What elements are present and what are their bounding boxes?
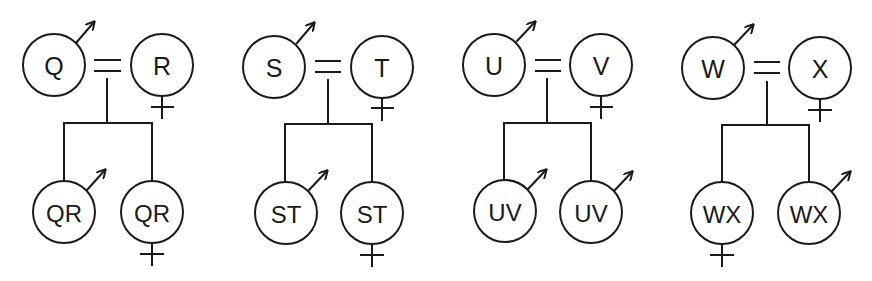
male-symbol-icon <box>309 171 327 190</box>
family-w-x: W X WX WX <box>682 25 851 266</box>
person-label: U <box>485 52 503 80</box>
female-symbol-icon <box>809 99 831 121</box>
person-label: ST <box>357 201 388 228</box>
female-symbol-icon <box>152 96 173 118</box>
marriage-symbol <box>95 60 120 71</box>
male-symbol-icon <box>76 22 94 43</box>
person-node-child-male[interactable]: QR <box>33 170 105 243</box>
person-node-child-male[interactable]: UV <box>560 172 632 243</box>
person-label: QR <box>46 200 82 227</box>
person-label: WX <box>703 201 742 228</box>
family-u-v: U V UV UV <box>463 22 632 243</box>
pedigree-diagram: Q R QR QR <box>0 0 872 281</box>
person-node-child-female[interactable]: WX <box>691 182 753 266</box>
person-label: Q <box>44 52 63 80</box>
male-symbol-icon <box>297 23 314 43</box>
male-symbol-icon <box>735 25 753 44</box>
person-node-father[interactable]: Q <box>23 22 94 96</box>
person-label: T <box>374 54 389 82</box>
marriage-symbol <box>755 62 779 73</box>
person-node-child-male[interactable]: WX <box>778 172 850 244</box>
person-label: UV <box>574 200 607 227</box>
male-symbol-icon <box>614 172 632 191</box>
person-node-child-male[interactable]: UV <box>474 170 546 242</box>
person-node-mother[interactable]: T <box>351 36 413 120</box>
person-label: S <box>266 54 283 82</box>
female-symbol-icon <box>141 243 163 265</box>
person-node-mother[interactable]: R <box>131 34 193 118</box>
person-label: X <box>812 55 829 83</box>
person-node-child-female[interactable]: ST <box>341 182 403 266</box>
male-symbol-icon <box>528 170 546 189</box>
person-label: WX <box>790 201 829 228</box>
male-symbol-icon <box>832 172 850 191</box>
family-s-t: S T ST ST <box>243 23 413 266</box>
person-label: V <box>593 52 610 80</box>
pedigree-canvas: Q R QR QR <box>0 0 872 281</box>
person-node-father[interactable]: U <box>463 22 535 96</box>
marriage-symbol <box>536 60 560 71</box>
female-symbol-icon <box>711 244 733 266</box>
person-label: W <box>701 55 725 83</box>
person-node-child-female[interactable]: QR <box>121 181 183 265</box>
person-label: R <box>153 52 171 80</box>
female-symbol-icon <box>361 244 383 266</box>
marriage-symbol <box>316 61 340 72</box>
person-label: ST <box>271 201 302 228</box>
person-node-father[interactable]: S <box>243 23 314 98</box>
person-node-father[interactable]: W <box>682 25 753 99</box>
female-symbol-icon <box>591 96 612 118</box>
male-symbol-icon <box>517 22 535 41</box>
female-symbol-icon <box>372 98 393 120</box>
male-symbol-icon <box>87 170 105 190</box>
person-label: UV <box>488 199 521 226</box>
person-node-child-male[interactable]: ST <box>255 171 327 244</box>
person-label: QR <box>134 200 170 227</box>
family-q-r: Q R QR QR <box>23 22 193 265</box>
person-node-mother[interactable]: X <box>789 37 851 121</box>
person-node-mother[interactable]: V <box>570 34 632 118</box>
